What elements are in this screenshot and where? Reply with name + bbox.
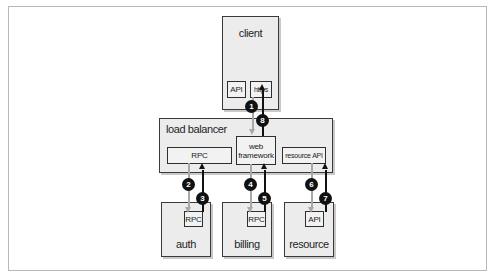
edge-2-arrowhead-icon — [185, 207, 191, 213]
load-balancer-node: load balancer RPC web framework resource… — [159, 118, 333, 173]
step-4-badge: 4 — [244, 178, 257, 191]
edge-4-arrowhead-icon — [247, 207, 253, 213]
edge-7-arrowhead-icon — [322, 163, 328, 169]
client-api-port: API — [227, 81, 246, 98]
billing-rpc-port: RPC — [247, 211, 266, 227]
edge-3-arrowhead-icon — [199, 163, 205, 169]
load-balancer-label: load balancer — [166, 123, 227, 135]
resource-api-port: API — [305, 211, 324, 227]
client-node: client API https — [222, 16, 279, 110]
client-label: client — [223, 27, 278, 39]
edge-5-arrowhead-icon — [261, 163, 267, 169]
billing-label: billing — [223, 238, 271, 250]
edge-1-arrowhead-icon — [249, 129, 255, 135]
step-8-badge: 8 — [256, 114, 269, 127]
lb-web-framework-component: web framework — [236, 136, 276, 165]
lb-rpc-component: RPC — [167, 147, 232, 164]
step-5-badge: 5 — [258, 192, 271, 205]
resource-label: resource — [285, 238, 333, 250]
step-6-badge: 6 — [305, 178, 318, 191]
step-2-badge: 2 — [182, 178, 195, 191]
edge-8-arrowhead-icon — [259, 84, 265, 90]
step-3-badge: 3 — [196, 192, 209, 205]
lb-resource-api-component: resource API — [282, 147, 326, 164]
edge-8-line — [262, 88, 264, 136]
step-1-badge: 1 — [245, 100, 258, 113]
edge-3-line — [202, 170, 204, 212]
step-7-badge: 7 — [319, 192, 332, 205]
edge-5-line — [264, 170, 266, 212]
edge-6-arrowhead-icon — [308, 207, 314, 213]
edge-7-line — [325, 170, 327, 212]
auth-rpc-port: RPC — [184, 211, 203, 227]
auth-label: auth — [162, 238, 210, 250]
